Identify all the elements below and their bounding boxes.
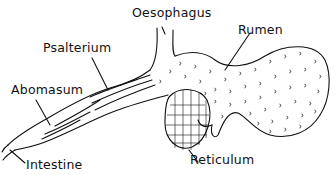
label-intestine: Intestine: [26, 157, 83, 172]
label-oesophagus: Oesophagus: [132, 5, 212, 20]
rumen-texture: [160, 52, 321, 133]
reticulum-texture: [166, 90, 209, 150]
ruminant-stomach-diagram: Oesophagus Rumen Psalterium Abomasum Ret…: [0, 0, 336, 175]
oesophagus-leader: [162, 27, 165, 34]
label-abomasum: Abomasum: [11, 82, 83, 97]
reticulum-outline: [165, 90, 210, 149]
oesophagus-outline: [150, 28, 175, 70]
label-reticulum: Reticulum: [190, 152, 254, 167]
label-psalterium: Psalterium: [43, 40, 111, 55]
label-rumen: Rumen: [238, 22, 283, 37]
psalterium-leader: [92, 58, 108, 90]
intestine-leader: [10, 150, 25, 163]
